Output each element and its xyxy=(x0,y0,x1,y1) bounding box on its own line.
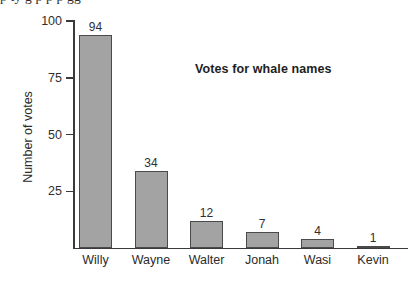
bar-walter xyxy=(190,221,223,248)
bar-kevin xyxy=(357,246,390,248)
y-axis-line xyxy=(73,20,75,249)
y-axis-title: Number of votes xyxy=(21,57,35,217)
bar-value-walter: 12 xyxy=(177,206,237,220)
y-tick-label-25: 25 xyxy=(48,184,66,198)
bar-value-jonah: 7 xyxy=(232,217,292,231)
bar-value-wayne: 34 xyxy=(121,156,181,170)
y-tick-label-50: 50 xyxy=(48,128,66,142)
y-tick-50 xyxy=(66,134,73,136)
y-tick-label-75: 75 xyxy=(48,71,66,85)
bar-chart: 255075100 Number of votes Votes for whal… xyxy=(0,0,420,284)
chart-title: Votes for whale names xyxy=(195,62,332,76)
y-tick-label-100: 100 xyxy=(41,14,66,28)
x-label-kevin: Kevin xyxy=(338,253,408,267)
y-tick-25 xyxy=(66,191,73,193)
bar-value-wasi: 4 xyxy=(288,224,348,238)
bar-value-willy: 94 xyxy=(66,20,126,34)
bar-willy xyxy=(79,35,112,248)
bar-wayne xyxy=(135,171,168,248)
y-tick-75 xyxy=(66,77,73,79)
bar-wasi xyxy=(301,239,334,248)
chart-page: p ty g p p p gg 255075100 Number of vote… xyxy=(0,0,420,284)
bar-value-kevin: 1 xyxy=(343,231,403,245)
bar-jonah xyxy=(246,232,279,248)
